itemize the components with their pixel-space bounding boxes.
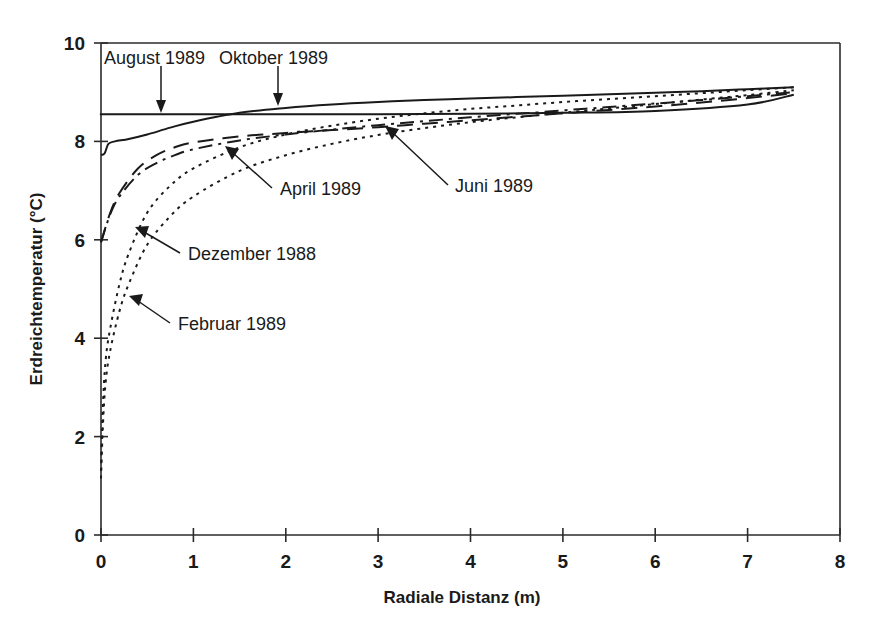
x-axis-title: Radiale Distanz (m) [384, 588, 541, 607]
curve-april-1989 [101, 93, 794, 242]
annotation-oktober: Oktober 1989 [219, 48, 328, 68]
annotation-februar: Februar 1989 [178, 314, 286, 334]
x-tick-label-1: 1 [188, 551, 199, 572]
x-tick-label-0: 0 [96, 551, 107, 572]
annotation-labels: August 1989 Oktober 1989 Juni 1989 April… [104, 48, 533, 334]
y-tick-label-10: 10 [64, 33, 85, 54]
y-tick-label-6: 6 [74, 230, 85, 251]
annotation-dezember: Dezember 1988 [188, 244, 316, 264]
y-axis-title: Erdreichtemperatur (°C) [27, 193, 46, 386]
y-tick-label-4: 4 [74, 328, 85, 349]
leader-dezember [144, 232, 180, 253]
x-tick-label-8: 8 [835, 551, 846, 572]
arrowhead-dezember [135, 226, 149, 238]
leader-juni [393, 133, 448, 185]
annotation-august: August 1989 [104, 48, 205, 68]
x-tick-label-3: 3 [373, 551, 384, 572]
x-tick-label-6: 6 [650, 551, 661, 572]
y-tick-label-8: 8 [74, 131, 85, 152]
curve-dezember-1988 [101, 87, 794, 471]
leader-februar [138, 301, 170, 323]
arrowhead-oktober [273, 93, 283, 106]
x-axis-tick-labels: 0 1 2 3 4 5 6 7 8 [96, 551, 846, 572]
arrowhead-februar [129, 294, 143, 306]
x-tick-label-7: 7 [742, 551, 753, 572]
curve-august-1989 [101, 95, 794, 115]
x-tick-label-2: 2 [281, 551, 292, 572]
annotation-juni: Juni 1989 [455, 176, 533, 196]
line-chart-canvas: 0 2 4 6 8 10 0 1 2 3 4 5 6 [0, 0, 880, 626]
annotation-april: April 1989 [280, 179, 361, 199]
data-curves [101, 87, 794, 478]
x-tick-label-4: 4 [465, 551, 476, 572]
y-tick-label-0: 0 [74, 525, 85, 546]
x-tick-label-5: 5 [558, 551, 569, 572]
y-axis-tick-labels: 0 2 4 6 8 10 [64, 33, 86, 546]
y-tick-label-2: 2 [74, 427, 85, 448]
curve-februar-1989 [101, 90, 794, 478]
arrowhead-august [156, 100, 166, 113]
chart-figure: 0 2 4 6 8 10 0 1 2 3 4 5 6 [0, 0, 880, 626]
